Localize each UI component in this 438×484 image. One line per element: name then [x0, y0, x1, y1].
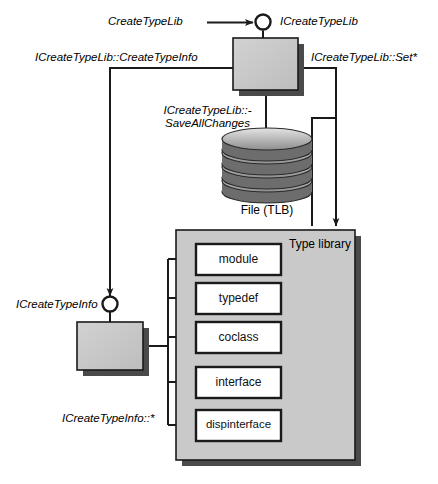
element-label-interface: interface — [196, 375, 281, 389]
label-icreatetypeinfo-star: ICreateTypeInfo::* — [62, 412, 154, 425]
label-file-tlb: File (TLB) — [222, 204, 312, 217]
tlb-disc-1-top — [222, 128, 312, 150]
element-label-dispinterface: dispinterface — [194, 418, 283, 430]
label-type-library: Type library — [289, 238, 351, 251]
label-icreatetypelib: ICreateTypeLib — [280, 15, 358, 28]
tlb-file-cylinder[interactable] — [222, 128, 312, 203]
label-icreatetypeinfo: ICreateTypeInfo — [16, 298, 98, 311]
label-icreatetypelib-saveallchanges-line1: ICreateTypeLib::- — [155, 104, 260, 117]
diagram-root: CreateTypeLib ICreateTypeLib ICreateType… — [0, 0, 438, 484]
lollipop-icon-icreatetypeinfo — [103, 297, 118, 312]
element-label-typedef: typedef — [196, 291, 281, 305]
type-info-object-box[interactable] — [77, 322, 149, 376]
type-lib-object-body — [233, 38, 298, 90]
element-label-module: module — [196, 252, 281, 266]
label-icreatetypelib-createtypeinfo: ICreateTypeLib::CreateTypeInfo — [35, 51, 198, 64]
label-icreatetypelib-set: ICreateTypeLib::Set* — [311, 51, 417, 64]
type-lib-object-box[interactable] — [233, 38, 304, 96]
element-label-coclass: coclass — [196, 330, 281, 344]
label-createtypelib: CreateTypeLib — [108, 15, 183, 28]
path-set-branch-left — [312, 118, 336, 226]
type-info-object-body — [77, 322, 143, 370]
lollipop-icon-icreatetypelib — [256, 15, 271, 30]
label-icreatetypelib-saveallchanges-line2: SaveAllChanges — [155, 117, 260, 130]
